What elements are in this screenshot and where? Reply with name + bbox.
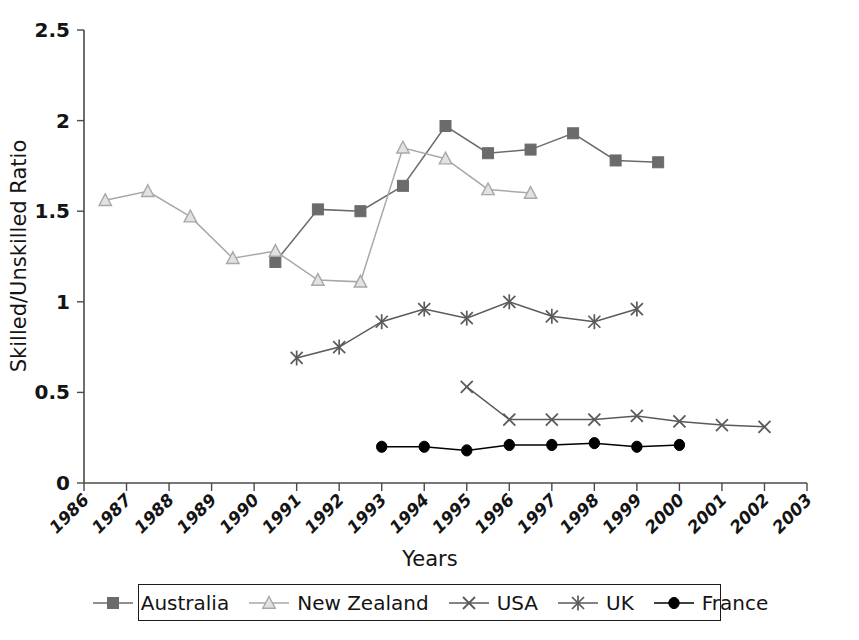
- data-point-asterisk: [503, 294, 515, 309]
- legend-label: USA: [497, 591, 538, 615]
- data-point-asterisk: [333, 340, 345, 355]
- x-tick-label: 2000: [641, 490, 689, 538]
- x-tick-label: 1991: [258, 490, 306, 538]
- chart-container: 00.511.522.5 198619871988198919901991199…: [0, 0, 859, 640]
- data-point-filled-square: [610, 155, 621, 166]
- data-point-filled-circle: [674, 439, 684, 450]
- data-point-filled-square: [653, 157, 664, 168]
- legend-label: France: [702, 591, 769, 615]
- x-tick-label: 1995: [428, 490, 476, 538]
- x-tick-label: 1990: [215, 490, 263, 538]
- x-axis-title: Years: [401, 547, 457, 571]
- data-point-filled-circle: [462, 445, 472, 456]
- x-tick-label: 2002: [726, 490, 774, 538]
- y-tick-label: 1.5: [35, 199, 70, 223]
- data-point-asterisk: [376, 314, 388, 329]
- data-point-open-triangle: [184, 210, 196, 222]
- legend-item-new-zealand[interactable]: New Zealand: [247, 591, 428, 615]
- line-chart: 00.511.522.5 198619871988198919901991199…: [0, 0, 859, 640]
- data-point-filled-circle: [547, 439, 557, 450]
- x-tick-label: 1996: [471, 490, 519, 538]
- legend-label: UK: [606, 591, 634, 615]
- data-point-filled-square: [270, 256, 281, 267]
- data-point-asterisk: [291, 350, 303, 365]
- x-tick-label: 1987: [88, 490, 136, 538]
- y-axis-tick-labels: 00.511.522.5: [35, 18, 70, 495]
- legend-marker-cross: [447, 593, 491, 613]
- legend-marker-filled-circle: [652, 593, 696, 613]
- chart-legend: AustraliaNew ZealandUSAUKFrance: [138, 584, 721, 621]
- data-point-filled-circle: [632, 441, 642, 452]
- y-tick-label: 0.5: [35, 380, 70, 404]
- legend-item-usa[interactable]: USA: [447, 591, 538, 615]
- data-point-filled-circle: [377, 441, 387, 452]
- y-tick-label: 0: [56, 471, 70, 495]
- data-point-open-triangle: [397, 141, 409, 153]
- series-uk: [291, 294, 643, 365]
- data-point-open-triangle: [269, 245, 281, 257]
- x-tick-label: 1992: [300, 490, 348, 538]
- data-point-filled-circle: [419, 441, 429, 452]
- data-point-asterisk: [461, 311, 473, 326]
- x-tick-label: 1993: [343, 490, 391, 538]
- data-point-filled-square: [568, 128, 579, 139]
- x-tick-label: 2001: [683, 490, 731, 538]
- y-tick-label: 2.5: [35, 18, 70, 42]
- data-point-filled-square: [397, 180, 408, 191]
- data-point-open-triangle: [482, 183, 494, 195]
- x-tick-label: 1989: [173, 490, 221, 538]
- series-line: [275, 126, 658, 262]
- data-point-filled-square: [107, 597, 118, 608]
- x-tick-label: 2003: [768, 490, 816, 538]
- data-point-asterisk: [631, 302, 643, 317]
- legend-item-australia[interactable]: Australia: [91, 591, 229, 615]
- y-tick-label: 1: [56, 290, 70, 314]
- x-tick-label: 1997: [513, 490, 561, 538]
- data-series-group: [99, 121, 770, 456]
- legend-label: New Zealand: [297, 591, 428, 615]
- legend-marker-filled-square: [91, 593, 135, 613]
- series-australia: [270, 121, 664, 268]
- legend-label: Australia: [141, 591, 229, 615]
- legend-item-france[interactable]: France: [652, 591, 769, 615]
- data-point-asterisk: [418, 302, 430, 317]
- axes-group: [77, 30, 807, 491]
- data-point-filled-circle: [589, 438, 599, 449]
- data-point-cross: [461, 381, 473, 393]
- y-axis-title: Skilled/Unskilled Ratio: [7, 140, 31, 372]
- series-france: [377, 438, 685, 456]
- series-usa: [461, 381, 771, 433]
- y-tick-label: 2: [56, 109, 70, 133]
- x-tick-label: 1986: [45, 490, 93, 538]
- data-point-filled-square: [312, 204, 323, 215]
- x-tick-label: 1994: [385, 490, 433, 538]
- data-point-filled-square: [355, 206, 366, 217]
- x-tick-label: 1988: [130, 490, 178, 538]
- legend-item-uk[interactable]: UK: [556, 591, 634, 615]
- legend-marker-open-triangle: [247, 593, 291, 613]
- x-tick-label: 1998: [556, 490, 604, 538]
- x-axis-tick-labels: 1986198719881989199019911992199319941995…: [45, 490, 816, 538]
- series-line: [297, 302, 637, 358]
- data-point-filled-square: [440, 121, 451, 132]
- data-point-filled-square: [525, 144, 536, 155]
- data-point-open-triangle: [142, 185, 154, 197]
- data-point-open-triangle: [312, 274, 324, 286]
- data-point-filled-square: [483, 148, 494, 159]
- data-point-filled-circle: [504, 439, 514, 450]
- legend-marker-asterisk: [556, 593, 600, 613]
- data-point-filled-circle: [669, 597, 679, 608]
- x-tick-label: 1999: [598, 490, 646, 538]
